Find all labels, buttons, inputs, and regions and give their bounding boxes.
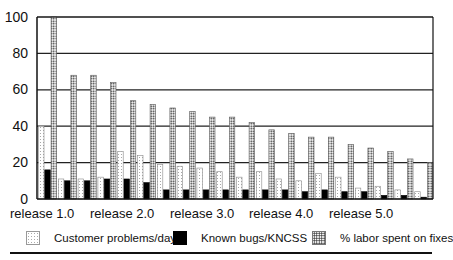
known-bugs-bar: [322, 190, 328, 199]
plot-area: [0, 0, 443, 205]
legend-bugs-label: Known bugs/KNCSS: [201, 232, 307, 244]
labor-fixes-bar: [51, 17, 57, 199]
known-bugs-bar: [362, 192, 368, 199]
labor-fixes-bar: [210, 117, 216, 199]
customer-problems-bar: [157, 164, 163, 199]
known-bugs-bar: [223, 190, 229, 199]
customer-problems-bar: [276, 179, 282, 199]
labor-fixes-bar: [368, 148, 374, 199]
customer-problems-bar: [415, 192, 421, 199]
customer-problems-bar: [237, 177, 243, 199]
y-tick-100: 100: [0, 10, 28, 24]
customer-problems-bar: [355, 188, 361, 199]
customer-problems-bar: [375, 186, 381, 199]
labor-fixes-bar: [150, 104, 156, 199]
labor-swatch-icon: [312, 231, 326, 245]
x-label-release-4: release 4.0: [249, 207, 313, 221]
labor-fixes-bar: [111, 83, 117, 199]
known-bugs-bar: [84, 181, 90, 199]
labor-fixes-bar: [408, 159, 414, 199]
legend-customer-problems: Customer problems/day: [26, 230, 176, 246]
labor-fixes-bar: [289, 133, 295, 199]
bottom-rule: [10, 252, 432, 254]
legend-labor-label: % labor spent on fixes: [340, 232, 453, 244]
customer-problems-bar: [336, 177, 342, 199]
customer-problems-bar: [78, 179, 84, 199]
known-bugs-bar: [104, 179, 110, 199]
y-tick-60: 60: [0, 82, 28, 96]
customer-problems-bar: [316, 174, 322, 199]
labor-fixes-bar: [229, 117, 235, 199]
labor-fixes-bar: [71, 75, 77, 199]
labor-fixes-bar: [130, 101, 136, 199]
labor-fixes-bar: [170, 108, 176, 199]
customer-problems-bar: [98, 177, 104, 199]
labor-fixes-bar: [328, 137, 334, 199]
known-bugs-bar: [282, 190, 288, 199]
labor-fixes-bar: [427, 163, 433, 199]
known-bugs-bar: [203, 190, 209, 199]
known-bugs-bar: [45, 170, 51, 199]
known-bugs-bar: [65, 181, 71, 199]
known-bugs-bar: [302, 192, 308, 199]
labor-fixes-bar: [348, 144, 354, 199]
y-tick-0: 0: [0, 192, 28, 206]
bugs-swatch-icon: [173, 231, 187, 245]
known-bugs-bar: [243, 190, 249, 199]
x-label-release-3: release 3.0: [170, 207, 234, 221]
legend-labor-fixes: % labor spent on fixes: [312, 230, 453, 246]
y-tick-40: 40: [0, 119, 28, 133]
customer-problems-bar: [138, 155, 144, 199]
labor-fixes-bar: [388, 152, 394, 199]
known-bugs-bar: [124, 179, 130, 199]
x-label-release-2: release 2.0: [90, 207, 154, 221]
y-tick-20: 20: [0, 155, 28, 169]
known-bugs-bar: [263, 190, 269, 199]
labor-fixes-bar: [309, 137, 315, 199]
known-bugs-bar: [183, 190, 189, 199]
x-label-release-5: release 5.0: [329, 207, 393, 221]
known-bugs-bar: [144, 183, 150, 199]
customer-problems-bar: [39, 126, 45, 199]
customer-problems-bar: [177, 166, 183, 199]
labor-fixes-bar: [249, 123, 255, 199]
labor-fixes-bar: [190, 112, 196, 199]
customer-problems-bar: [256, 172, 262, 199]
labor-fixes-bar: [269, 130, 275, 199]
y-tick-80: 80: [0, 46, 28, 60]
legend-known-bugs: Known bugs/KNCSS: [173, 230, 307, 246]
customer-problems-bar: [118, 152, 124, 199]
customer-swatch-icon: [26, 231, 40, 245]
legend-customer-label: Customer problems/day: [54, 232, 176, 244]
customer-problems-bar: [197, 168, 203, 199]
x-label-release-1: release 1.0: [10, 207, 74, 221]
known-bugs-bar: [164, 190, 170, 199]
customer-problems-bar: [296, 181, 302, 199]
customer-problems-bar: [58, 179, 64, 199]
labor-fixes-bar: [91, 75, 97, 199]
customer-problems-bar: [395, 190, 401, 199]
customer-problems-bar: [217, 172, 223, 199]
known-bugs-bar: [342, 192, 348, 199]
